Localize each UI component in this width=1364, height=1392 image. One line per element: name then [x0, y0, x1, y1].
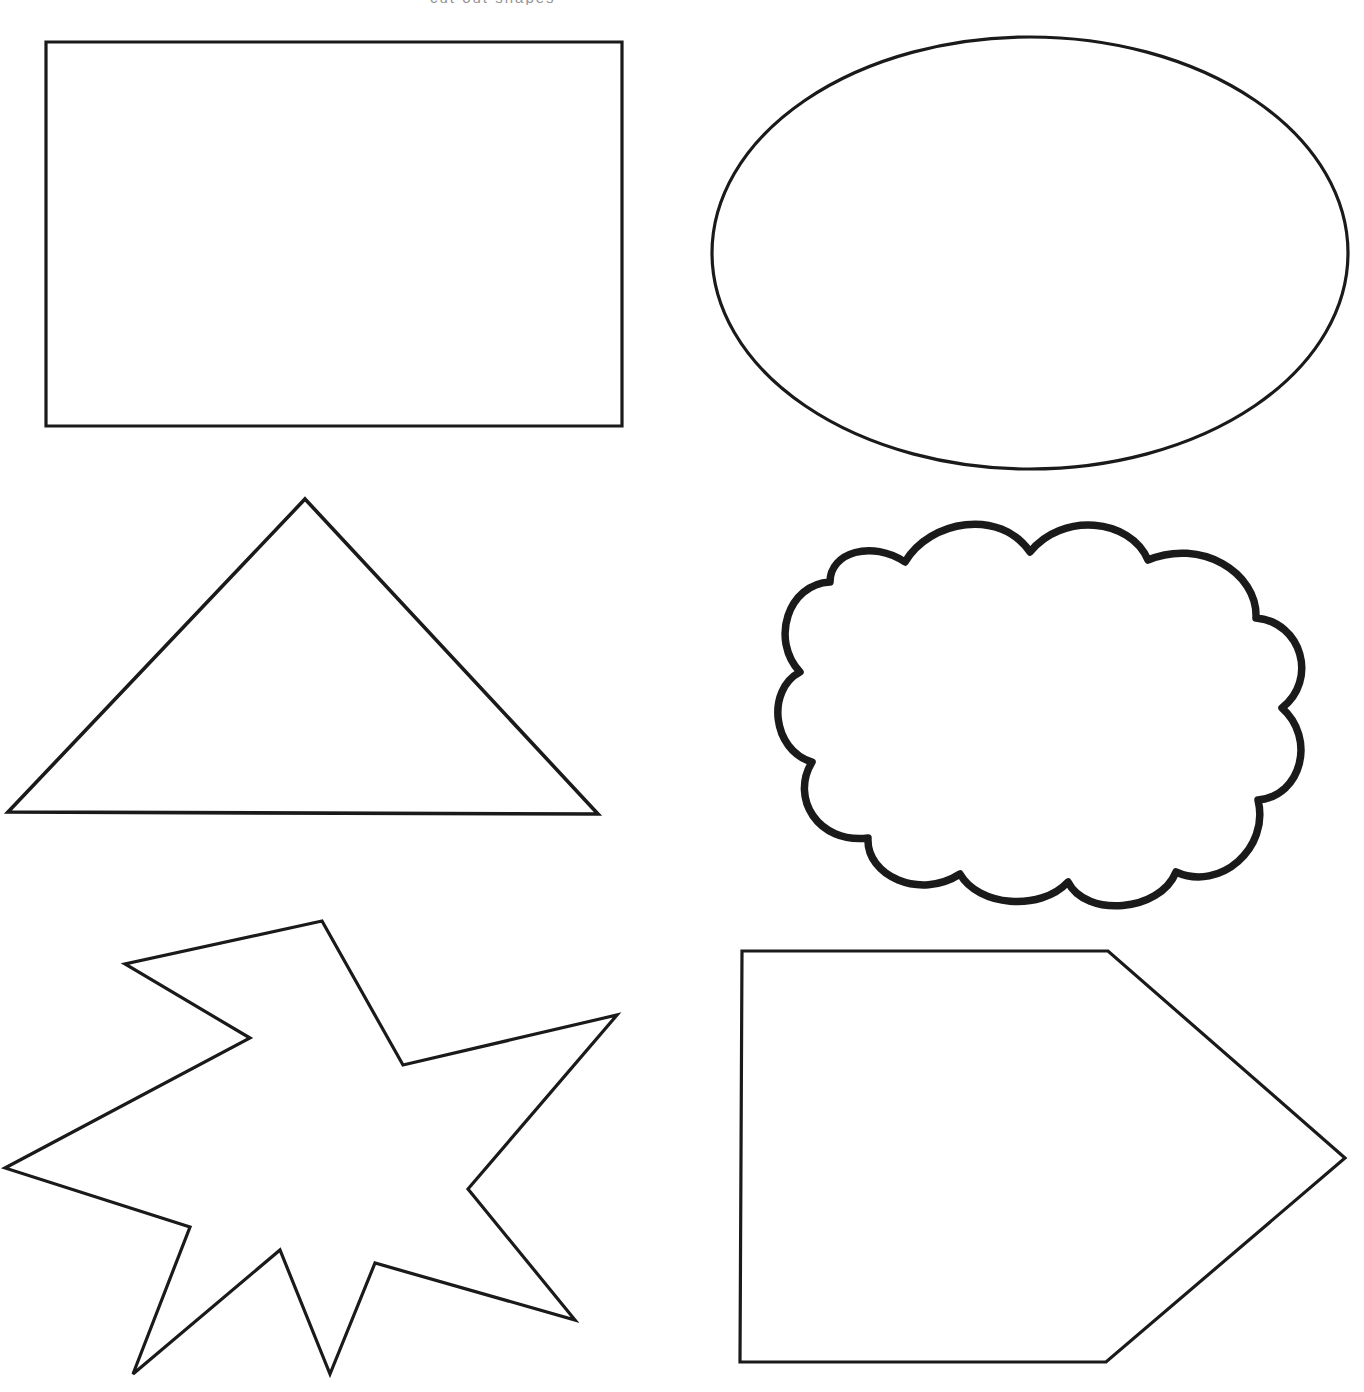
- rectangle-shape[interactable]: [46, 42, 622, 426]
- star-shape[interactable]: [5, 921, 617, 1374]
- ellipse-shape[interactable]: [712, 37, 1348, 469]
- pentagon-arrow-shape[interactable]: [740, 951, 1345, 1362]
- worksheet-page: cut out shapes: [0, 0, 1364, 1392]
- cloud-shape[interactable]: [778, 524, 1302, 906]
- shapes-canvas: [0, 0, 1364, 1392]
- triangle-shape[interactable]: [8, 499, 598, 814]
